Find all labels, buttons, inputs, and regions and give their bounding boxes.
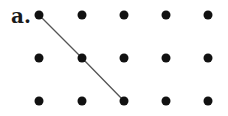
grid-dot [120, 11, 129, 20]
grid-dot [35, 11, 44, 20]
grid-dot [120, 54, 129, 63]
grid-dot [78, 11, 87, 20]
grid-dot [78, 54, 87, 63]
grid-dot [162, 11, 171, 20]
grid-dot [204, 54, 213, 63]
dot-grid [35, 11, 213, 106]
grid-dot [35, 97, 44, 106]
grid-dot [120, 97, 129, 106]
grid-dot [204, 97, 213, 106]
grid-dot [78, 97, 87, 106]
grid-dot [162, 54, 171, 63]
grid-dot [204, 11, 213, 20]
grid-dot [162, 97, 171, 106]
dot-grid-diagram [0, 0, 228, 116]
grid-dot [35, 54, 44, 63]
